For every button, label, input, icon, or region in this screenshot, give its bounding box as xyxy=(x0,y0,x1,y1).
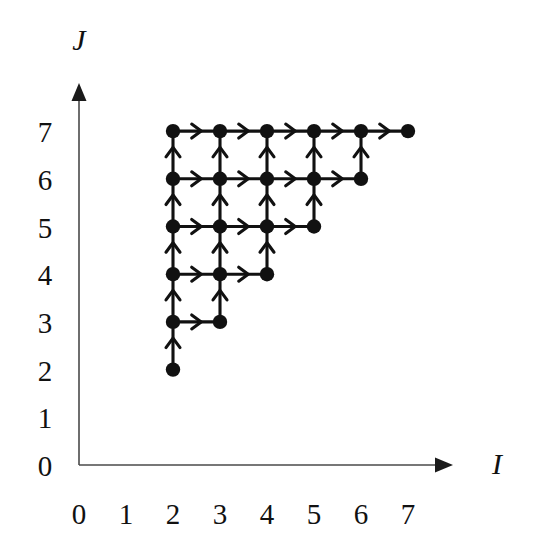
y-tick-label: 1 xyxy=(38,402,53,434)
lattice-node: (2, 2) xyxy=(166,362,180,376)
lattice-node: (7, 7) xyxy=(401,124,415,138)
x-tick-label: 6 xyxy=(354,498,369,530)
lattice-node: (4, 7) xyxy=(260,124,274,138)
lattice-node: (4, 5) xyxy=(260,219,274,233)
lattice-node: (3, 6) xyxy=(213,172,227,186)
y-tick-label: 2 xyxy=(38,355,53,387)
x-tick-label: 4 xyxy=(260,498,275,530)
lattice-node: (4, 4) xyxy=(260,267,274,281)
lattice-node: (2, 3) xyxy=(166,315,180,329)
x-tick-label: 5 xyxy=(307,498,322,530)
y-tick-label: 5 xyxy=(38,212,53,244)
nodes-layer: (2, 2)(2, 3)(3, 3)(2, 4)(3, 4)(4, 4)(2, … xyxy=(166,124,415,377)
y-tick-label: 6 xyxy=(38,164,53,196)
lattice-node: (5, 5) xyxy=(307,219,321,233)
lattice-node: (2, 5) xyxy=(166,219,180,233)
lattice-node: (2, 7) xyxy=(166,124,180,138)
lattice-node: (3, 5) xyxy=(213,219,227,233)
x-tick-label: 0 xyxy=(72,498,87,530)
y-tick-label: 3 xyxy=(38,307,53,339)
x-tick-label: 7 xyxy=(401,498,416,530)
y-axis-name-label: J xyxy=(72,23,87,56)
y-axis-arrow-icon xyxy=(72,83,87,101)
lattice-node: (6, 7) xyxy=(354,124,368,138)
x-axis-name-label: I xyxy=(491,447,504,480)
y-tick-label: 0 xyxy=(38,450,53,482)
plot-canvas: (2, 2)(2, 3)(3, 3)(2, 4)(3, 4)(4, 4)(2, … xyxy=(0,0,536,554)
lattice-node: (5, 7) xyxy=(307,124,321,138)
lattice-node: (4, 6) xyxy=(260,172,274,186)
y-tick-label: 7 xyxy=(38,116,53,148)
x-tick-label: 2 xyxy=(166,498,181,530)
x-tick-label: 1 xyxy=(119,498,134,530)
lattice-node: (3, 4) xyxy=(213,267,227,281)
lattice-node: (2, 4) xyxy=(166,267,180,281)
lattice-node: (6, 6) xyxy=(354,172,368,186)
lattice-path-figure: (2, 2)(2, 3)(3, 3)(2, 4)(3, 4)(4, 4)(2, … xyxy=(0,0,536,554)
edges-layer xyxy=(166,124,402,363)
y-tick-label: 4 xyxy=(38,259,53,291)
lattice-node: (2, 6) xyxy=(166,172,180,186)
x-tick-label: 3 xyxy=(213,498,228,530)
x-axis-arrow-icon xyxy=(435,458,453,473)
lattice-node: (3, 7) xyxy=(213,124,227,138)
lattice-node: (3, 3) xyxy=(213,315,227,329)
lattice-node: (5, 6) xyxy=(307,172,321,186)
